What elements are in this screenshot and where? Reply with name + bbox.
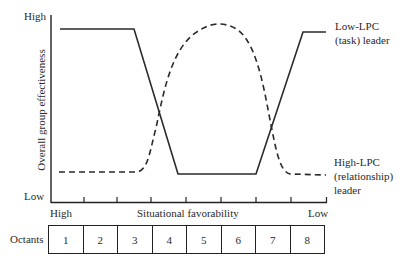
octants-row: 1 2 3 4 5 6 7 8	[48, 225, 325, 254]
high-lpc-label-line1: High-LPC	[334, 156, 380, 169]
high-lpc-label-line3: leader	[334, 184, 361, 197]
low-lpc-line	[60, 29, 326, 174]
low-lpc-label-line2: (task) leader	[335, 34, 390, 47]
octant-cell: 2	[84, 226, 119, 253]
y-axis-high-label: High	[24, 10, 46, 23]
y-axis-title: Overall group effectiveness	[35, 35, 47, 185]
x-axis-title: Situational favorability	[137, 207, 239, 220]
octant-cell: 5	[187, 226, 222, 253]
octant-cell: 1	[49, 226, 84, 253]
high-lpc-line	[59, 24, 326, 175]
octant-cell: 8	[291, 226, 325, 253]
y-axis-low-label: Low	[24, 190, 44, 203]
octant-cell: 3	[118, 226, 153, 253]
octant-cell: 4	[153, 226, 188, 253]
x-axis-low-label: Low	[308, 207, 328, 220]
octant-cell: 7	[256, 226, 291, 253]
octant-cell: 6	[222, 226, 257, 253]
high-lpc-label-line2: (relationship)	[334, 170, 393, 183]
low-lpc-label-line1: Low-LPC	[335, 20, 379, 33]
octants-label: Octants	[10, 233, 44, 246]
x-axis-high-label: High	[50, 207, 72, 220]
